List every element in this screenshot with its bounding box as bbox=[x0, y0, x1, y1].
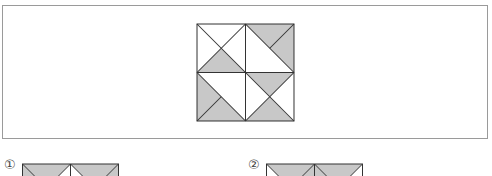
option-1-figure[interactable] bbox=[21, 163, 120, 176]
question-figure bbox=[196, 23, 295, 122]
option-2-label: ② bbox=[248, 157, 260, 172]
option-1-label: ① bbox=[4, 157, 16, 172]
option-2-figure[interactable] bbox=[265, 163, 364, 176]
